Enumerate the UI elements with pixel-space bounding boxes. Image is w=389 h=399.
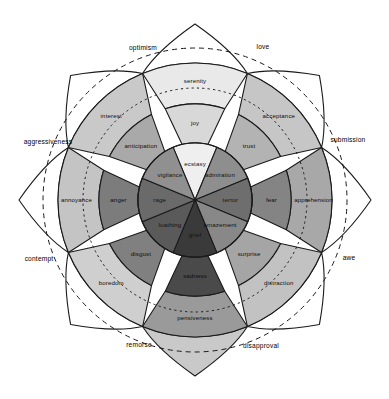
label-middle-sadness: sadness: [183, 272, 207, 279]
label-inner-trust: admiration: [205, 171, 235, 178]
label-outer-joy: serenity: [184, 77, 207, 84]
dyad-label-awe: awe: [343, 254, 356, 261]
label-inner-joy: ecstasy: [184, 160, 207, 167]
label-outer-sadness: pensiveness: [177, 314, 213, 321]
label-middle-fear: fear: [266, 196, 277, 203]
label-middle-joy: joy: [190, 119, 200, 126]
dyad-label-submission: submission: [331, 136, 366, 143]
label-outer-surprise: distraction: [264, 279, 293, 286]
label-outer-anticipation: interest: [101, 112, 122, 119]
dyad-label-disapproval: disapproval: [243, 342, 279, 350]
label-outer-trust: acceptance: [262, 112, 295, 119]
label-inner-anger: rage: [153, 196, 166, 203]
label-middle-disgust: disgust: [131, 250, 152, 257]
label-outer-anger: annoyance: [61, 196, 93, 203]
label-inner-disgust: loathing: [159, 221, 182, 228]
label-middle-anger: anger: [110, 196, 126, 203]
label-inner-anticipation: vigilance: [157, 171, 183, 178]
label-middle-trust: trust: [243, 142, 256, 149]
dyad-label-contempt: contempt: [25, 255, 54, 263]
dyad-label-aggressiveness: aggressiveness: [24, 138, 73, 146]
plutchik-wheel-diagram: ecstasyjoyserenityadmirationtrustaccepta…: [0, 0, 389, 399]
label-middle-anticipation: anticipation: [125, 142, 158, 149]
label-inner-sadness: grief: [189, 231, 202, 238]
dyad-label-love: love: [257, 43, 270, 50]
label-outer-fear: apprehension: [294, 196, 333, 203]
dyad-label-remorse: remorse: [126, 341, 152, 348]
wheel-canvas: ecstasyjoyserenityadmirationtrustaccepta…: [0, 0, 389, 399]
dyad-label-optimism: optimism: [129, 44, 157, 52]
label-outer-disgust: boredom: [99, 279, 124, 286]
label-middle-surprise: surprise: [238, 250, 261, 257]
label-inner-fear: terror: [223, 196, 238, 203]
label-inner-surprise: amazement: [203, 221, 236, 228]
